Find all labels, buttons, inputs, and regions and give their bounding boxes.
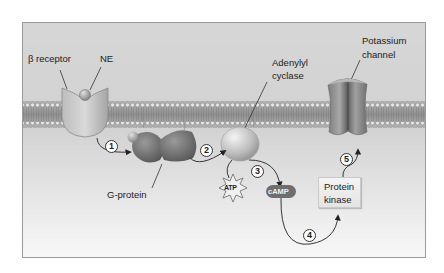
protein-kinase-label-line2: kinase: [324, 194, 351, 206]
step-marker-2: 2: [200, 144, 213, 157]
protein-kinase-box: Protein kinase: [318, 177, 361, 208]
atp-label: ATP: [224, 182, 237, 194]
ne-label: NE: [100, 53, 113, 65]
adenylyl-cyclase-label-line1: Adenylyl: [272, 57, 308, 69]
step-marker-1: 1: [105, 140, 118, 153]
protein-kinase-label-line1: Protein: [324, 181, 354, 193]
camp-label: cAMP: [268, 186, 289, 198]
adenylyl-cyclase-label-line2: cyclase: [272, 70, 304, 82]
step-marker-4: 4: [303, 229, 316, 242]
potassium-channel-label-line2: channel: [362, 49, 395, 61]
step-marker-3: 3: [251, 165, 264, 178]
potassium-channel-shape: [328, 79, 367, 135]
potassium-channel-label-line1: Potassium: [362, 35, 406, 47]
adenylyl-cyclase-shape: [221, 127, 259, 161]
beta-receptor-label: β receptor: [28, 53, 71, 65]
ne-molecule: [80, 90, 91, 101]
g-protein-label: G-protein: [107, 189, 147, 201]
step-marker-5: 5: [340, 153, 353, 166]
diagram-stage: β receptor NE Adenylyl cyclase Potassium…: [0, 0, 444, 273]
